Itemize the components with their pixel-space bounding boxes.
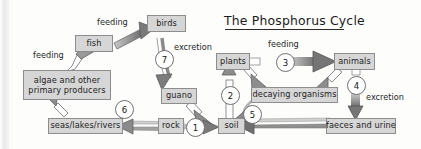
node-birds[interactable]: birds (147, 15, 186, 32)
node-rock[interactable]: rock (158, 118, 184, 134)
label-feeding-algae-fish: feeding (33, 50, 64, 60)
step-circle-6[interactable]: 6 (115, 100, 134, 119)
label-feeding-plants-animals: feeding (268, 39, 299, 49)
step-circle-4[interactable]: 4 (347, 76, 366, 95)
node-algae-line1: algae and other (34, 75, 100, 85)
title-underline (225, 29, 344, 30)
node-soil[interactable]: soil (218, 118, 245, 134)
node-algae-line2: primary producers (28, 85, 105, 95)
label-excretion-animals-faeces: excretion (366, 92, 404, 102)
step-circle-3[interactable]: 3 (276, 53, 295, 72)
label-feeding-fish-birds: feeding (97, 17, 128, 27)
page-title: The Phosphorus Cycle (224, 13, 365, 28)
step-circle-7[interactable]: 7 (155, 50, 174, 69)
node-seas-lakes-rivers[interactable]: seas/lakes/rivers (48, 118, 123, 134)
node-fish[interactable]: fish (75, 35, 113, 52)
label-excretion-birds-guano: excretion (174, 42, 212, 52)
step-circle-5[interactable]: 5 (243, 105, 262, 124)
step-circle-2[interactable]: 2 (221, 86, 240, 105)
node-faeces-and-urine[interactable]: faeces and urine (326, 118, 396, 134)
node-decaying-organisms[interactable]: decaying organisms (251, 87, 338, 103)
node-algae-and-primary-producers[interactable]: algae and other primary producers (23, 70, 111, 100)
step-circle-1[interactable]: 1 (186, 118, 205, 137)
node-plants[interactable]: plants (216, 53, 250, 70)
node-guano[interactable]: guano (161, 88, 197, 104)
phosphorus-cycle-diagram: The Phosphorus Cycle fish birds algae an… (0, 0, 421, 149)
node-animals[interactable]: animals (334, 53, 375, 70)
